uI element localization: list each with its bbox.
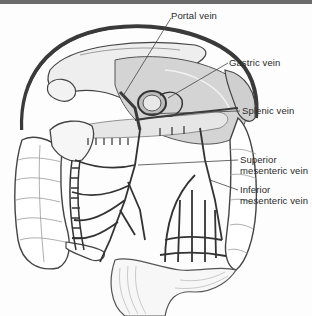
ascending-colon (15, 137, 69, 269)
gastric-vein-label: Gastric vein (229, 58, 280, 69)
appendix (66, 242, 104, 261)
splenic-vein-label: Splenic vein (242, 106, 294, 117)
portal-vein-label: Portal vein (171, 11, 217, 22)
gallbladder (47, 79, 75, 101)
superior-mesenteric-vein-label: Superior mesenteric vein (240, 155, 308, 176)
superior-mesenteric-line1: Superior (240, 155, 308, 166)
superior-mesenteric-line2: mesenteric vein (240, 166, 308, 177)
inferior-mesenteric-line1: Inferior (240, 185, 308, 196)
inferior-mesenteric-vein-label: Inferior mesenteric vein (240, 185, 308, 206)
portal-system-diagram: Portal vein Gastric vein Splenic vein Su… (0, 0, 312, 316)
superior-mesenteric-leader (138, 160, 238, 165)
sigmoid-colon (111, 259, 236, 316)
inferior-mesenteric-line2: mesenteric vein (240, 196, 308, 207)
inferior-mesenteric-vein (160, 128, 226, 262)
